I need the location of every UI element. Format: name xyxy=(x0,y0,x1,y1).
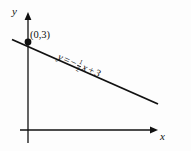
graph-figure: y x (0,3) y = − 1 2 x + 3 xyxy=(0,0,191,151)
y-intercept-label: (0,3) xyxy=(30,30,50,41)
y-axis-label: y xyxy=(12,6,17,17)
x-axis-arrowhead-icon xyxy=(150,127,158,134)
x-axis-label: x xyxy=(160,131,165,142)
y-axis-arrowhead-icon xyxy=(25,12,32,20)
